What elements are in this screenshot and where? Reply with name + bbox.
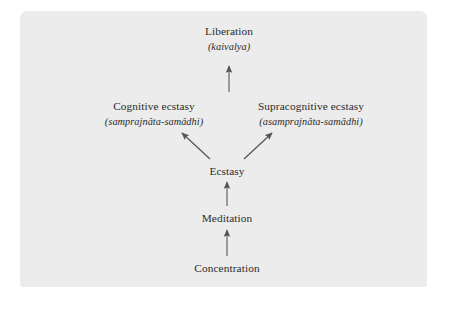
arrow-ecstasy-to-supracognitive [244, 133, 272, 159]
node-supracognitive-ecstasy-label: Supracognitive ecstasy [258, 99, 364, 115]
node-liberation-label: Liberation [205, 24, 253, 40]
node-cognitive-ecstasy-label: Cognitive ecstasy [105, 99, 203, 115]
node-meditation: Meditation [202, 211, 253, 227]
node-cognitive-ecstasy: Cognitive ecstasy (samprajnâta-samâdhi) [105, 99, 203, 129]
node-liberation-sublabel: (kaivalya) [205, 40, 253, 54]
node-ecstasy: Ecstasy [209, 164, 244, 180]
node-concentration: Concentration [194, 261, 259, 277]
node-concentration-label: Concentration [194, 261, 259, 277]
node-liberation: Liberation (kaivalya) [205, 24, 253, 54]
node-supracognitive-ecstasy: Supracognitive ecstasy (asamprajnâta-sam… [258, 99, 364, 129]
node-supracognitive-ecstasy-sublabel: (asamprajnâta-samâdhi) [258, 115, 364, 129]
arrow-ecstasy-to-cognitive [182, 133, 210, 159]
node-ecstasy-label: Ecstasy [209, 164, 244, 180]
node-cognitive-ecstasy-sublabel: (samprajnâta-samâdhi) [105, 115, 203, 129]
node-meditation-label: Meditation [202, 211, 253, 227]
diagram-canvas: Liberation (kaivalya) Cognitive ecstasy … [0, 0, 453, 313]
